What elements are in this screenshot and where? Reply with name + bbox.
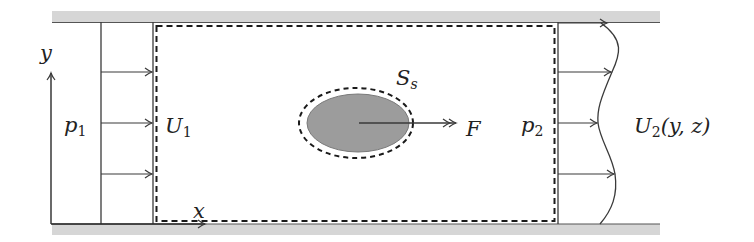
channel-flow-diagram: y x p1 U1 Ss F p2 U2(y, z) bbox=[0, 0, 754, 242]
top-wall bbox=[52, 11, 660, 23]
p2-label: p2 bbox=[521, 113, 543, 139]
x-axis-label: x bbox=[193, 199, 205, 223]
p1-label: p1 bbox=[64, 113, 86, 139]
inlet-uniform-profile bbox=[101, 22, 153, 224]
u1-label: U1 bbox=[165, 114, 192, 140]
coordinate-axes bbox=[51, 73, 205, 224]
bottom-wall bbox=[52, 224, 660, 235]
u2-label: U2(y, z) bbox=[634, 114, 711, 140]
ss-label: Ss bbox=[396, 66, 418, 92]
outlet-nonuniform-profile bbox=[558, 22, 619, 224]
y-axis-label: y bbox=[39, 41, 53, 65]
force-label: F bbox=[465, 117, 482, 141]
